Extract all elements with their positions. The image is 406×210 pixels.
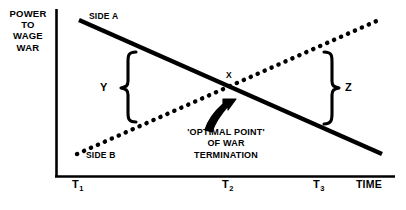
x-axis-title: TIME: [356, 179, 382, 191]
brace-y-label: Y: [100, 81, 108, 93]
x-tick-t2-subscript: 2: [229, 184, 233, 193]
side-a-label: SIDE A: [89, 12, 118, 22]
war-termination-diagram: POWER TO WAGE WAR TIME SIDE A SIDE B X Y…: [0, 0, 406, 210]
brace-z-label: Z: [345, 81, 352, 93]
brace-z-shape: [324, 52, 339, 124]
x-tick-t1-base: T: [72, 178, 79, 190]
x-tick-t1: T1: [72, 178, 83, 190]
diagram-canvas: [0, 0, 406, 210]
brace-y-shape: [121, 52, 136, 122]
x-tick-t2-base: T: [222, 178, 229, 190]
x-tick-t3: T3: [313, 178, 324, 190]
x-tick-t3-subscript: 3: [320, 184, 324, 193]
side-b-label: SIDE B: [86, 151, 116, 161]
optimal-point-annotation: 'OPTIMAL POINT' OF WAR TERMINATION: [166, 127, 286, 161]
x-tick-t3-base: T: [313, 178, 320, 190]
y-axis-title: POWER TO WAGE WAR: [4, 8, 52, 53]
intersection-point-label: X: [226, 71, 232, 81]
x-tick-t2: T2: [222, 178, 233, 190]
x-tick-t1-subscript: 1: [79, 184, 83, 193]
